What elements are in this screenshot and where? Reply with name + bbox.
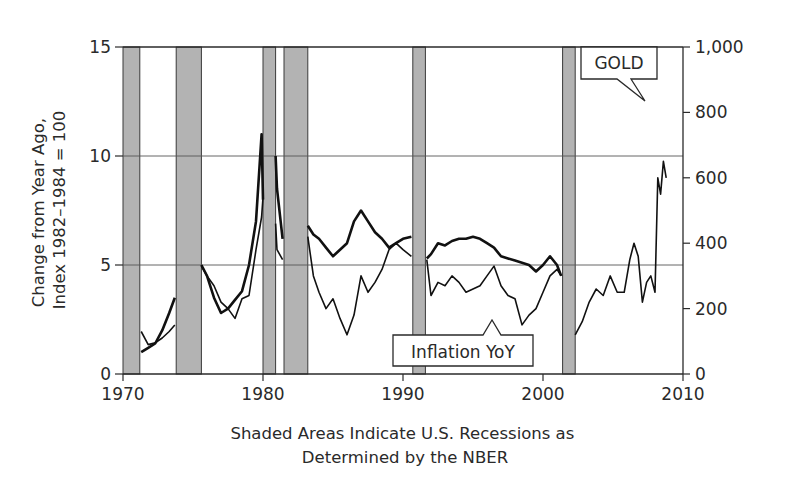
y-right-tick-label: 600 xyxy=(695,168,727,188)
plot-frame xyxy=(123,47,683,374)
gold-callout: GOLD xyxy=(581,47,657,101)
y-right-tick-label: 400 xyxy=(695,233,727,253)
recession-bands xyxy=(123,47,575,374)
y-left-tick-label: 15 xyxy=(89,37,111,57)
recession-band xyxy=(263,47,276,374)
recession-band xyxy=(123,47,140,374)
chart: 1970198019902000201005101502004006008001… xyxy=(0,0,785,486)
x-tick-label: 1990 xyxy=(381,384,424,404)
inflation-callout-label: Inflation YoY xyxy=(411,342,515,362)
y-left-tick-label: 0 xyxy=(100,364,111,384)
inflation-line xyxy=(141,134,561,352)
x-axis-title: Shaded Areas Indicate U.S. Recessions as… xyxy=(230,424,579,467)
recession-band xyxy=(176,47,201,374)
recession-band xyxy=(413,47,426,374)
gold-line xyxy=(141,161,666,344)
series-lines xyxy=(141,134,666,352)
x-axis-title-line-1: Shaded Areas Indicate U.S. Recessions as xyxy=(230,424,574,443)
y-right-tick-label: 1,000 xyxy=(695,37,744,57)
x-tick-label: 2010 xyxy=(661,384,704,404)
y-right-tick-label: 0 xyxy=(695,364,706,384)
y-left-tick-label: 10 xyxy=(89,146,111,166)
x-axis-title-line-2: Determined by the NBER xyxy=(302,448,508,467)
y-axis-left-title-line-2: Index 1982–1984 = 100 xyxy=(50,111,69,310)
x-tick-label: 2000 xyxy=(521,384,564,404)
x-tick-label: 1970 xyxy=(101,384,144,404)
y-right-tick-label: 200 xyxy=(695,299,727,319)
y-axis-left-title-line-1: Change from Year Ago, xyxy=(29,118,48,307)
y-axis-left-title: Change from Year Ago, Index 1982–1984 = … xyxy=(29,111,69,310)
gold-callout-label: GOLD xyxy=(594,53,643,73)
x-tick-label: 1980 xyxy=(241,384,284,404)
recession-band xyxy=(284,47,308,374)
y-left-tick-label: 5 xyxy=(100,255,111,275)
recession-band xyxy=(563,47,576,374)
y-right-tick-label: 800 xyxy=(695,102,727,122)
